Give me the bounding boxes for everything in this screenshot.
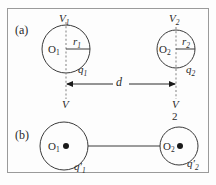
panel-b-right-sphere: O2 q′2 (160, 127, 199, 172)
axis-potential-left-a: V (62, 98, 70, 110)
center-dot-right-b (177, 143, 183, 149)
figure-container: (a) O1 r1 V1 q1 V (0, 0, 216, 185)
physics-diagram: (a) O1 r1 V1 q1 V (0, 0, 216, 185)
separation-arrowhead-left (66, 81, 73, 87)
center-label-right-b: O2 (163, 140, 175, 155)
panel-a-right-sphere: O2 r2 V2 q2 V 2 (157, 12, 196, 122)
axis-potential-right-a: V (172, 98, 180, 110)
separation-label: d (116, 75, 123, 89)
radius-label-right-a: r2 (182, 35, 190, 50)
potential-label-left-a: V1 (59, 12, 69, 27)
center-label-right-a: O2 (159, 43, 171, 58)
center-label-left-b: O1 (48, 140, 60, 155)
potential-label-right-a: V2 (169, 12, 180, 27)
separation-arrowhead-right (169, 81, 176, 87)
separation-dimension: d (66, 75, 176, 89)
center-label-left-a: O1 (48, 43, 60, 58)
panel-a-left-sphere: O1 r1 V1 q1 V (42, 12, 90, 110)
charge-label-right-b: q′2 (187, 157, 199, 172)
panel-b-tag: (b) (15, 128, 29, 142)
panel-a-tag: (a) (15, 23, 28, 37)
radius-label-left-a: r1 (73, 35, 81, 50)
panel-b-left-sphere: O1 q′1 (40, 122, 88, 175)
charge-label-right-a: q2 (186, 63, 196, 78)
panel-b: (b) O1 q′1 O2 q′2 (15, 122, 199, 175)
panel-a: (a) O1 r1 V1 q1 V (15, 12, 196, 122)
axis-potential-right-a-sub: 2 (172, 110, 178, 122)
charge-label-left-a: q1 (78, 63, 87, 78)
center-dot-left-b (63, 143, 69, 149)
